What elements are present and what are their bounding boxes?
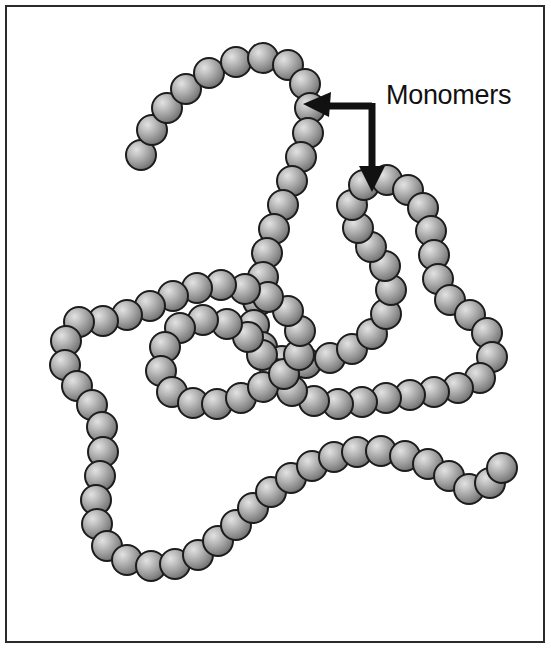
monomers-label: Monomers <box>386 82 511 109</box>
monomer-bead <box>221 47 251 77</box>
monomer-bead <box>487 453 517 483</box>
polymer-figure: Monomers <box>0 0 551 649</box>
monomer-bead-group <box>50 43 517 581</box>
monomer-bead <box>194 58 224 88</box>
